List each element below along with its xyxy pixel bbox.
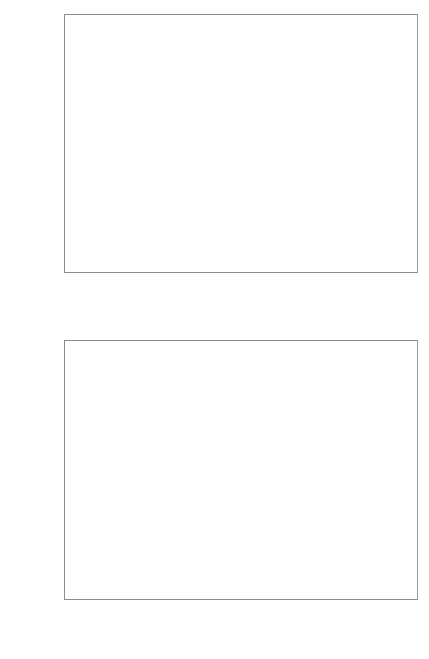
figure-caption: [0, 648, 429, 659]
likelihood-figure: [0, 325, 429, 645]
confidence-figure: [0, 0, 429, 325]
plot-area-likelihood: [64, 340, 418, 600]
plot-area-confidence: [64, 14, 418, 273]
